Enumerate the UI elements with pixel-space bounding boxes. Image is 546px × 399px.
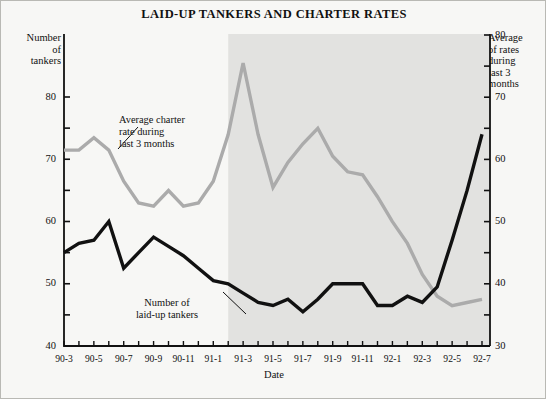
x-tick-label: 92-7: [462, 353, 502, 364]
right-tick-label: 60: [495, 153, 523, 164]
shaded-region: [228, 34, 490, 346]
left-tick-label: 40: [28, 340, 56, 351]
x-axis-title: Date: [1, 369, 546, 380]
left-tick-label: 50: [28, 277, 56, 288]
right-tick-label: 80: [495, 29, 523, 40]
right-tick-label: 30: [495, 340, 523, 351]
left-tick-label: 70: [28, 153, 56, 164]
annotation-leader-lines: [118, 127, 246, 314]
charter-rate-annotation: Average charterrate duringlast 3 months: [119, 114, 239, 151]
chart-figure: LAID-UP TANKERS AND CHARTER RATES Number…: [0, 0, 546, 399]
right-tick-label: 40: [495, 277, 523, 288]
right-tick-label: 50: [495, 215, 523, 226]
plot-area: [1, 1, 546, 399]
right-tick-label: 70: [495, 91, 523, 102]
laid-up-tankers-annotation: Number oflaid-up tankers: [99, 297, 235, 321]
left-tick-label: 80: [28, 91, 56, 102]
left-tick-label: 60: [28, 215, 56, 226]
